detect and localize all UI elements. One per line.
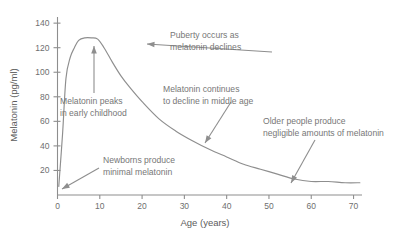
x-tick-label: 50 [264, 201, 274, 211]
x-axis-title: Age (years) [180, 217, 229, 228]
annotation-middle-age-decline: Melatonin continuesto decline in middle … [163, 84, 254, 143]
annotation-arrow-head [147, 42, 155, 48]
x-tick-label: 60 [307, 201, 317, 211]
annotation-text-line1: Older people produce [263, 116, 346, 126]
annotation-text-line2: melatonin declines [170, 42, 241, 52]
annotation-text-line1: Puberty occurs as [170, 30, 239, 40]
annotation-newborns-minimal: Newborns produceminimal melatonin [62, 155, 175, 189]
annotation-text-line2: negligible amounts of melatonin [263, 128, 384, 138]
y-axis-ticks: 20406080100120140 [35, 18, 60, 175]
x-tick-label: 0 [55, 201, 60, 211]
annotation-text-line2: to decline in middle age [163, 96, 254, 106]
x-tick-label: 30 [180, 201, 190, 211]
y-tick-label: 80 [40, 92, 50, 102]
x-tick-label: 20 [137, 201, 147, 211]
y-axis-title: Melatonin (pg/ml) [8, 68, 19, 141]
annotation-text-line1: Melatonin peaks [60, 96, 123, 106]
y-tick-label: 40 [40, 141, 50, 151]
annotation-text-line2: minimal melatonin [103, 167, 172, 177]
y-tick-label: 60 [40, 116, 50, 126]
chart-annotations: Melatonin peaksin early childhoodPuberty… [60, 30, 384, 189]
annotation-older-people-negligible: Older people producenegligible amounts o… [263, 116, 384, 183]
annotation-arrow-head [62, 183, 70, 189]
annotation-text-line2: in early childhood [60, 108, 127, 118]
y-tick-label: 100 [35, 67, 49, 77]
annotation-puberty-decline: Puberty occurs asmelatonin declines [147, 30, 272, 52]
chart-canvas: 20406080100120140 010203040506070 Melato… [0, 0, 396, 242]
annotation-text-line1: Melatonin continues [163, 84, 239, 94]
y-tick-label: 20 [40, 165, 50, 175]
annotation-arrow-head [91, 46, 97, 54]
annotation-arrow-head [205, 135, 211, 143]
x-axis-ticks: 010203040506070 [55, 195, 358, 211]
x-tick-label: 10 [95, 201, 105, 211]
y-tick-label: 120 [35, 43, 49, 53]
y-tick-label: 140 [35, 18, 49, 28]
x-tick-label: 40 [222, 201, 232, 211]
melatonin-age-chart: 20406080100120140 010203040506070 Melato… [0, 0, 396, 242]
x-tick-label: 70 [349, 201, 359, 211]
annotation-text-line1: Newborns produce [103, 155, 175, 165]
